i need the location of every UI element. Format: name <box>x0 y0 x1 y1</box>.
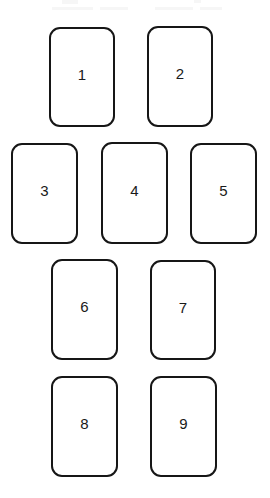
top-artifact <box>155 7 193 10</box>
top-artifact <box>62 0 78 4</box>
top-artifact <box>100 7 128 10</box>
card-label: 1 <box>78 67 86 82</box>
top-artifact <box>200 7 222 10</box>
card-label: 2 <box>176 66 184 81</box>
card-9[interactable]: 9 <box>150 376 217 477</box>
card-label: 7 <box>179 300 187 315</box>
card-5[interactable]: 5 <box>190 143 257 244</box>
card-2[interactable]: 2 <box>147 26 213 127</box>
card-label: 4 <box>130 183 138 198</box>
card-6[interactable]: 6 <box>51 259 118 360</box>
top-artifact <box>52 7 93 10</box>
top-artifact <box>194 0 201 3</box>
card-label: 3 <box>40 183 48 198</box>
card-grid-canvas: 123456789 <box>0 0 270 498</box>
card-3[interactable]: 3 <box>11 143 78 244</box>
card-label: 8 <box>80 416 88 431</box>
card-4[interactable]: 4 <box>101 142 168 244</box>
card-1[interactable]: 1 <box>49 27 115 127</box>
card-label: 6 <box>80 299 88 314</box>
card-label: 9 <box>179 416 187 431</box>
card-7[interactable]: 7 <box>150 260 216 360</box>
card-8[interactable]: 8 <box>51 376 118 477</box>
card-label: 5 <box>219 183 227 198</box>
